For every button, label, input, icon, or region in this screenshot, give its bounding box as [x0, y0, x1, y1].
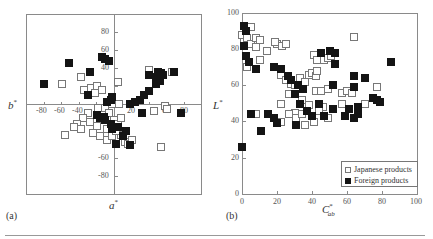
foreign-product-point — [299, 85, 307, 93]
foreign-product-point — [329, 81, 337, 89]
foreign-product-point — [354, 110, 362, 118]
foreign-product-point — [387, 58, 395, 66]
foreign-product-point — [308, 112, 316, 120]
japanese-product-point — [282, 40, 290, 48]
foreign-product-point — [264, 110, 272, 118]
japanese-product-point — [271, 38, 279, 46]
foreign-product-point — [329, 105, 337, 113]
open-square-icon — [345, 167, 351, 173]
foreign-product-point — [315, 100, 323, 108]
foreign-product-point — [376, 98, 384, 106]
legend-item-foreign: Foreign products — [345, 175, 414, 186]
japanese-product-point — [252, 43, 260, 51]
foreign-product-point — [331, 60, 339, 68]
plot-b-points — [0, 0, 433, 239]
filled-square-icon — [345, 178, 351, 184]
foreign-product-point — [247, 110, 255, 118]
plot-b-legend: Japanese products Foreign products — [341, 161, 418, 187]
figure-bottom-rule — [5, 235, 425, 236]
foreign-product-point — [350, 83, 358, 91]
legend-label: Japanese products — [354, 164, 412, 175]
japanese-product-point — [361, 100, 369, 108]
japanese-product-point — [256, 56, 264, 64]
legend-label: Foreign products — [354, 175, 408, 186]
japanese-product-point — [277, 100, 285, 108]
japanese-product-point — [350, 33, 358, 41]
legend-item-japanese: Japanese products — [345, 164, 414, 175]
foreign-product-point — [361, 74, 369, 82]
foreign-product-point — [320, 112, 328, 120]
foreign-product-point — [238, 143, 246, 151]
foreign-product-point — [252, 65, 260, 73]
foreign-product-point — [341, 112, 349, 120]
foreign-product-point — [291, 90, 299, 98]
foreign-product-point — [331, 49, 339, 57]
foreign-product-point — [292, 121, 300, 129]
foreign-product-point — [242, 27, 250, 35]
japanese-product-point — [373, 83, 381, 91]
japanese-product-point — [313, 67, 321, 75]
foreign-product-point — [350, 72, 358, 80]
japanese-product-point — [263, 47, 271, 55]
foreign-product-point — [257, 127, 265, 135]
japanese-product-point — [301, 121, 309, 129]
foreign-product-point — [240, 42, 248, 50]
foreign-product-point — [317, 49, 325, 57]
